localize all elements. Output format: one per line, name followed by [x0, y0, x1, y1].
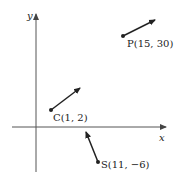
point-c: C(1, 2) — [49, 88, 88, 123]
y-axis-label: y — [26, 10, 33, 21]
vector-s-arrow — [86, 132, 98, 162]
point-s-label: S(11, −6) — [101, 159, 150, 170]
point-p-dot — [121, 34, 125, 38]
vector-p-arrow — [123, 20, 155, 36]
point-p-label: P(15, 30) — [127, 38, 173, 49]
x-axis-label: x — [159, 132, 165, 143]
vector-c-arrow — [51, 88, 80, 110]
point-s-dot — [96, 160, 100, 164]
coordinate-diagram: y x P(15, 30) C(1, 2) S(11, −6) — [0, 0, 174, 183]
point-s: S(11, −6) — [86, 132, 150, 170]
point-c-label: C(1, 2) — [53, 112, 88, 123]
point-p: P(15, 30) — [121, 20, 173, 49]
